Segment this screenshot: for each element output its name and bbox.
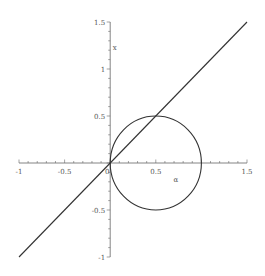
y-tick-label: 1 (101, 66, 105, 74)
x-axis-label: α (173, 176, 178, 184)
y-tick-label: 0.5 (94, 113, 105, 121)
x-tick-label: -1 (16, 168, 23, 176)
curves (19, 22, 247, 257)
line-y-equals-x (19, 22, 247, 257)
x-tick-label: -0.5 (58, 168, 72, 176)
y-axis-label: x (113, 44, 117, 52)
y-tick-label: -0.5 (92, 207, 106, 215)
x-tick-label: 0 (105, 168, 109, 176)
y-tick-label: 1.5 (94, 19, 105, 27)
plot-area: -1-0.500.51.5-1-0.50.511.5 xα (0, 0, 265, 276)
x-tick-label: 1.5 (241, 168, 252, 176)
tick-labels: -1-0.500.51.5-1-0.50.511.5 (16, 19, 253, 262)
x-tick-label: 0.5 (150, 168, 161, 176)
y-tick-label: -1 (98, 254, 105, 262)
